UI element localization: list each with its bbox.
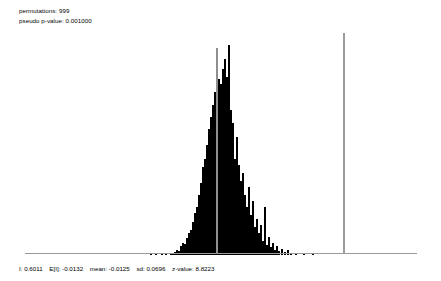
histogram-bar [312,254,314,255]
pseudo-p-value-label: pseudo p-value: 0.001000 [19,16,92,26]
observed-statistic-line [343,33,345,254]
histogram-bars [25,31,417,255]
expected-i-value: E[I]: -0.0132 [49,265,83,272]
permutations-label: permutations: 999 [19,6,92,16]
mean-reference-line [216,48,218,254]
header-annotations: permutations: 999 pseudo p-value: 0.0010… [19,6,92,25]
x-axis-line [25,253,417,254]
histogram-plot [25,30,417,255]
permutation-histogram-panel: permutations: 999 pseudo p-value: 0.0010… [0,0,441,281]
sd-value: sd: 0.0696 [136,265,165,272]
mean-value: mean: -0.0125 [90,265,130,272]
histogram-bar [295,254,297,255]
z-value: z-value: 8.8223 [172,265,214,272]
histogram-bar [165,254,167,255]
histogram-bar [150,254,152,255]
morans-i-value: I: 0.6011 [19,265,43,272]
histogram-bar [155,254,157,255]
footer-statistics: I: 0.6011 E[I]: -0.0132 mean: -0.0125 sd… [19,265,219,272]
